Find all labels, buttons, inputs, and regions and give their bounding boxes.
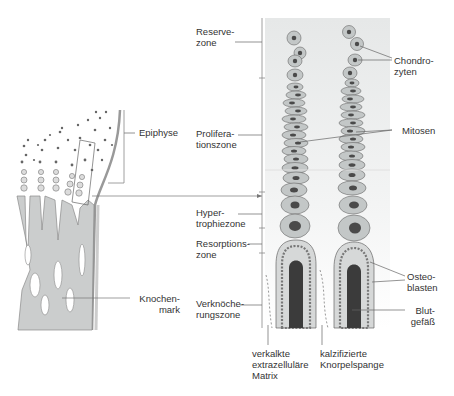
mitosen-label: Mitosen [402, 125, 435, 136]
proliferationszone-label: Prolifera- tionszone [196, 128, 237, 150]
resorptionszone-label: Resorptions- zone [196, 238, 250, 260]
growth-plate-illustration [0, 0, 454, 396]
reservezone-label: Reserve- zone [196, 26, 235, 48]
verkalkte-matrix-label: verkalkte extrazelluläre Matrix [252, 348, 309, 381]
chondrozyten-label: Chondro- zyten [394, 55, 434, 77]
growth-plate-detail [235, 18, 405, 345]
osteoblasten-label: Osteo- blasten [407, 271, 438, 293]
knorpelspange-label: kalzifizierte Knorpelspange [320, 348, 384, 370]
hypertrophiezone-label: Hyper- trophiezone [196, 207, 246, 229]
blutgefaess-label: Blut- gefäß [405, 305, 435, 327]
knochenmark-label: Knochen- mark [136, 293, 180, 315]
epiphyse-label: Epiphyse [139, 127, 178, 138]
verknoecherungszone-label: Verknöche- rungszone [196, 298, 244, 320]
